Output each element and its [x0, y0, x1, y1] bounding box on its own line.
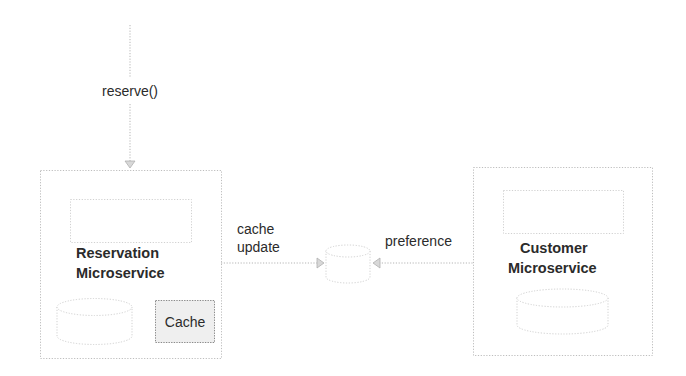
cache-box: Cache [156, 301, 215, 343]
cache-update-label-line1: cache [237, 221, 275, 237]
microservice-diagram: reserve() Reservation Microservice Cache… [0, 0, 686, 376]
reserve-call-label: reserve() [102, 83, 158, 99]
preference-edge: preference [373, 233, 473, 268]
customer-service-component [504, 191, 624, 234]
customer-title-line1: Customer [520, 240, 588, 256]
reservation-microservice: Reservation Microservice Cache [41, 171, 222, 359]
database-cylinder-icon [517, 289, 608, 334]
preference-label: preference [385, 233, 452, 249]
customer-title-line2: Microservice [508, 260, 597, 276]
customer-microservice: Customer Microservice [474, 168, 653, 356]
shared-store [326, 245, 370, 283]
reservation-title-line2: Microservice [76, 265, 165, 281]
cache-update-label-line2: update [237, 239, 280, 255]
database-cylinder-icon [326, 245, 370, 283]
database-cylinder-icon [57, 299, 132, 345]
cache-update-edge: cache update [221, 221, 324, 268]
arrow-left-icon [373, 258, 380, 268]
arrow-right-icon [317, 258, 324, 268]
reservation-service-component [71, 200, 192, 243]
reservation-title-line1: Reservation [76, 245, 159, 261]
arrow-down-icon [125, 161, 135, 168]
cache-label: Cache [165, 314, 206, 330]
reserve-call-edge: reserve() [102, 25, 158, 168]
